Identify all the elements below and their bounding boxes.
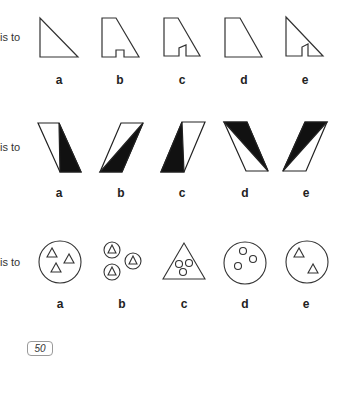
row-2-option-d-shaded-parallelogram[interactable] — [224, 122, 268, 171]
row-1-option-c-slant-notched-trapezoid[interactable] — [164, 18, 200, 56]
row-2-option-b-shaded-parallelogram[interactable] — [100, 123, 143, 172]
row-2-option-c-shaded-parallelogram[interactable] — [161, 122, 205, 172]
row-1-option-e-notched-triangle[interactable] — [286, 17, 323, 56]
row-1-option-a-right-triangle[interactable] — [40, 18, 78, 57]
row-3-option-c-triangle-three-circles[interactable] — [163, 243, 205, 279]
row-2-option-a-shaded-parallelogram[interactable] — [38, 123, 81, 172]
page-number-badge: 50 — [27, 341, 53, 356]
row-3-option-d-circle-three-circles[interactable] — [224, 242, 266, 284]
row-3-option-e-circle-two-triangles[interactable] — [286, 241, 328, 283]
row-2-option-e-shaded-parallelogram[interactable] — [283, 122, 327, 171]
row-3-option-a-circle-three-triangles[interactable] — [39, 241, 81, 283]
row-3-option-b-three-circled-triangles[interactable] — [104, 242, 141, 280]
row-1-option-d-trapezoid[interactable] — [225, 18, 262, 57]
row-1-option-b-notched-trapezoid[interactable] — [102, 18, 139, 57]
figures-canvas — [0, 0, 337, 400]
